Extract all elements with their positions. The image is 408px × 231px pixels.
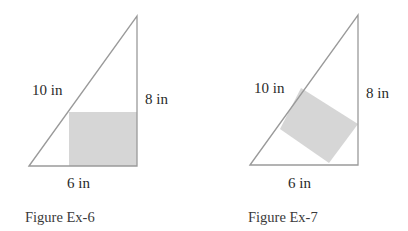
inscribed-square-ex6 — [69, 112, 137, 166]
caption-ex6: Figure Ex-6 — [25, 210, 95, 225]
vertical-side-label-ex7: 8 in — [366, 86, 389, 101]
figures-canvas — [0, 0, 408, 231]
hypotenuse-label-ex7: 10 in — [254, 81, 284, 96]
hypotenuse-label-ex6: 10 in — [32, 83, 62, 98]
caption-ex7: Figure Ex-7 — [248, 210, 318, 225]
inscribed-square-ex7 — [280, 88, 358, 163]
vertical-side-label-ex6: 8 in — [145, 92, 168, 107]
base-label-ex7: 6 in — [288, 176, 311, 191]
base-label-ex6: 6 in — [67, 176, 90, 191]
